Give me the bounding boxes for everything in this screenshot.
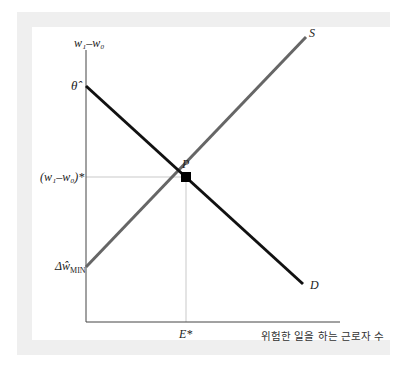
min-wage-diff-subscript: MIN [70, 266, 86, 275]
equilibrium-point-marker [181, 172, 191, 182]
equilibrium-wage-label: (w₁–w₀)* [40, 170, 84, 185]
equilibrium-point-label: P [182, 157, 189, 172]
y-axis-label: w₁–w₀ [74, 36, 104, 51]
theta-hat-label: θ̂ [71, 78, 77, 94]
demand-curve-label: D [310, 278, 319, 293]
supply-curve-label: S [309, 26, 315, 41]
x-axis-label: 위험한 일을 하는 근로자 수 [261, 328, 384, 343]
demand-curve [86, 86, 303, 284]
min-wage-diff-label: ΔŵMIN [55, 259, 86, 275]
supply-curve [86, 37, 306, 267]
min-wage-diff-symbol: Δŵ [55, 259, 70, 273]
equilibrium-quantity-label: E* [179, 327, 192, 342]
